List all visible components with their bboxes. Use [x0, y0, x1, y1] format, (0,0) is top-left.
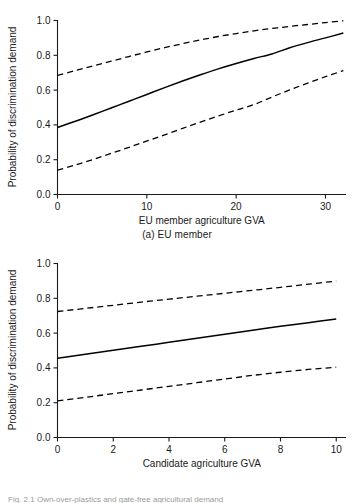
chart-panel-eu-member: 0.00.20.40.60.81.0 0102030 Probability o…	[0, 0, 354, 250]
y-axis-title: Probability of discrimination demand	[7, 270, 18, 431]
x-tick-marks	[58, 438, 337, 442]
svg-text:4: 4	[166, 444, 172, 455]
chart-b-curves	[58, 281, 337, 401]
chart-b-svg: 0.00.20.40.60.81.0 0246810 Probability o…	[0, 250, 354, 474]
svg-text:0.8: 0.8	[37, 50, 51, 61]
svg-text:10: 10	[331, 444, 343, 455]
svg-text:0.6: 0.6	[37, 328, 51, 339]
svg-text:0.0: 0.0	[37, 432, 51, 443]
svg-text:0: 0	[55, 444, 61, 455]
svg-text:0.4: 0.4	[37, 119, 51, 130]
svg-text:1.0: 1.0	[37, 15, 51, 26]
y-axis-title: Probability of discrimination demand	[7, 27, 18, 188]
chart-b-yaxis-group: 0.00.20.40.60.81.0	[37, 258, 58, 443]
chart-a-curves	[58, 21, 344, 170]
series-lower-95-ci	[58, 367, 337, 401]
svg-text:2: 2	[110, 444, 116, 455]
series-upper-95-ci	[58, 281, 337, 311]
chart-b-xaxis-group: 0246810	[55, 438, 346, 455]
chart-panel-candidate: 0.00.20.40.60.81.0 0246810 Probability o…	[0, 250, 354, 474]
figure-container: 0.00.20.40.60.81.0 0102030 Probability o…	[0, 0, 354, 503]
y-tick-labels: 0.00.20.40.60.81.0	[37, 15, 51, 200]
svg-text:0.8: 0.8	[37, 293, 51, 304]
series-predicted-probability	[58, 319, 337, 358]
svg-text:0.0: 0.0	[37, 189, 51, 200]
svg-text:1.0: 1.0	[37, 258, 51, 269]
svg-text:0.6: 0.6	[37, 85, 51, 96]
panel-a-subcaption: (a) EU member	[0, 229, 354, 240]
svg-text:0.4: 0.4	[37, 362, 51, 373]
y-tick-marks	[54, 264, 58, 438]
x-tick-labels: 0102030	[55, 201, 332, 212]
series-lower-95-ci	[58, 71, 344, 171]
x-tick-marks	[58, 195, 326, 199]
series-upper-95-ci	[58, 21, 344, 75]
svg-text:8: 8	[278, 444, 284, 455]
svg-text:0.2: 0.2	[37, 154, 51, 165]
figure-caption: Fig. 2.1 Own-over-plastics and gate-free…	[8, 495, 348, 503]
svg-text:30: 30	[320, 201, 332, 212]
series-predicted-probability	[58, 33, 344, 127]
chart-a-xaxis-group: 0102030	[55, 195, 346, 212]
svg-text:10: 10	[141, 201, 153, 212]
x-axis-title: Candidate agriculture GVA	[143, 458, 262, 469]
svg-text:6: 6	[222, 444, 228, 455]
svg-text:0.2: 0.2	[37, 397, 51, 408]
x-tick-labels: 0246810	[55, 444, 343, 455]
y-tick-marks	[54, 21, 58, 195]
x-axis-title: EU member agriculture GVA	[139, 215, 265, 226]
chart-a-yaxis-group: 0.00.20.40.60.81.0	[37, 15, 58, 200]
svg-text:0: 0	[55, 201, 61, 212]
y-tick-labels: 0.00.20.40.60.81.0	[37, 258, 51, 443]
svg-text:20: 20	[231, 201, 243, 212]
chart-a-svg: 0.00.20.40.60.81.0 0102030 Probability o…	[0, 0, 354, 250]
